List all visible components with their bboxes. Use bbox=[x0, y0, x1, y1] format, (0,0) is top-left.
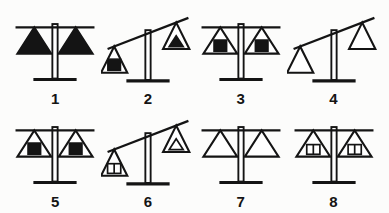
balance-scales-diagram: 1 2 3 4 5 6 7 8 bbox=[0, 0, 389, 213]
scale-post bbox=[53, 24, 58, 79]
balance-scale-8: 8 bbox=[288, 108, 379, 211]
scale-drawing bbox=[194, 5, 288, 91]
right-pan-triangle bbox=[245, 130, 279, 156]
balance-scale-3-label: 3 bbox=[236, 91, 245, 108]
right-pan-triangle bbox=[59, 27, 93, 53]
balance-scale-6: 6 bbox=[103, 108, 194, 211]
right-inner-square bbox=[70, 143, 83, 154]
balance-scale-4-art bbox=[287, 5, 381, 91]
balance-scale-6-label: 6 bbox=[144, 194, 153, 211]
scale-drawing bbox=[194, 108, 288, 194]
balance-scale-1-art bbox=[8, 5, 102, 91]
left-inner-square bbox=[214, 40, 227, 51]
scale-drawing bbox=[287, 108, 381, 194]
scale-drawing bbox=[101, 108, 195, 194]
balance-scale-7-label: 7 bbox=[236, 194, 245, 211]
left-pan-triangle bbox=[203, 130, 237, 156]
scale-drawing bbox=[8, 108, 102, 194]
balance-scale-4: 4 bbox=[288, 5, 379, 108]
scale-post bbox=[145, 133, 150, 183]
balance-scale-2-art bbox=[101, 5, 195, 91]
left-pan-triangle bbox=[287, 46, 313, 72]
balance-scale-1-label: 1 bbox=[51, 91, 60, 108]
scale-post bbox=[145, 30, 150, 80]
scale-post bbox=[53, 127, 58, 182]
balance-scale-7: 7 bbox=[196, 108, 287, 211]
balance-scale-7-art bbox=[194, 108, 288, 194]
scale-post bbox=[331, 127, 336, 182]
scale-drawing bbox=[287, 5, 381, 91]
balance-scale-8-label: 8 bbox=[329, 194, 338, 211]
balance-scale-1: 1 bbox=[10, 5, 101, 108]
scale-drawing bbox=[101, 5, 195, 91]
balance-scale-2-label: 2 bbox=[144, 91, 153, 108]
scale-post bbox=[331, 30, 336, 80]
balance-scale-8-art bbox=[287, 108, 381, 194]
balance-scale-2: 2 bbox=[103, 5, 194, 108]
balance-scale-3: 3 bbox=[196, 5, 287, 108]
balance-scale-5-label: 5 bbox=[51, 194, 60, 211]
left-inner-square bbox=[108, 59, 121, 70]
balance-scale-6-art bbox=[101, 108, 195, 194]
balance-scale-3-art bbox=[194, 5, 288, 91]
scale-drawing bbox=[8, 5, 102, 91]
scale-post bbox=[238, 24, 243, 79]
balance-scale-5-art bbox=[8, 108, 102, 194]
balance-scale-4-label: 4 bbox=[329, 91, 338, 108]
left-pan-triangle bbox=[18, 27, 52, 53]
left-inner-square bbox=[28, 143, 41, 154]
balance-scale-5: 5 bbox=[10, 108, 101, 211]
scale-post bbox=[238, 127, 243, 182]
right-inner-square bbox=[255, 40, 268, 51]
